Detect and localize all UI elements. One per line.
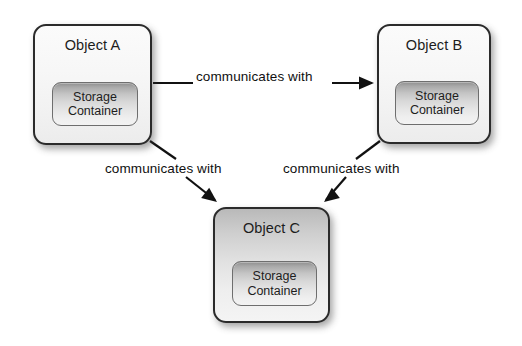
- arrowhead-a-to-b: [359, 77, 374, 90]
- connector-line-a-to-c: [150, 141, 176, 159]
- edge-label-b-to-c: communicates with: [283, 161, 400, 176]
- storage-label-line2: Container: [410, 103, 464, 118]
- object-node-c[interactable]: Object C Storage Container: [213, 207, 330, 323]
- storage-label-line1: Storage: [73, 90, 117, 105]
- arrowhead-b-to-c: [320, 188, 340, 207]
- connector-line-b-to-c: [356, 141, 380, 159]
- object-b-storage-container[interactable]: Storage Container: [395, 81, 479, 125]
- object-c-title: Object C: [243, 220, 300, 236]
- diagram-canvas: Object A Storage Container Object B Stor…: [0, 0, 522, 346]
- storage-label-line1: Storage: [253, 269, 297, 284]
- object-node-a[interactable]: Object A Storage Container: [33, 24, 152, 145]
- edge-label-a-to-c: communicates with: [105, 161, 222, 176]
- object-c-storage-container[interactable]: Storage Container: [232, 261, 317, 306]
- object-a-title: Object A: [65, 37, 121, 53]
- storage-label-line1: Storage: [415, 89, 459, 104]
- object-node-b[interactable]: Object B Storage Container: [377, 24, 491, 144]
- object-b-title: Object B: [406, 37, 462, 53]
- storage-label-line2: Container: [247, 284, 301, 299]
- edge-label-a-to-b: communicates with: [196, 69, 313, 84]
- storage-label-line2: Container: [68, 104, 122, 119]
- object-a-storage-container[interactable]: Storage Container: [52, 82, 138, 126]
